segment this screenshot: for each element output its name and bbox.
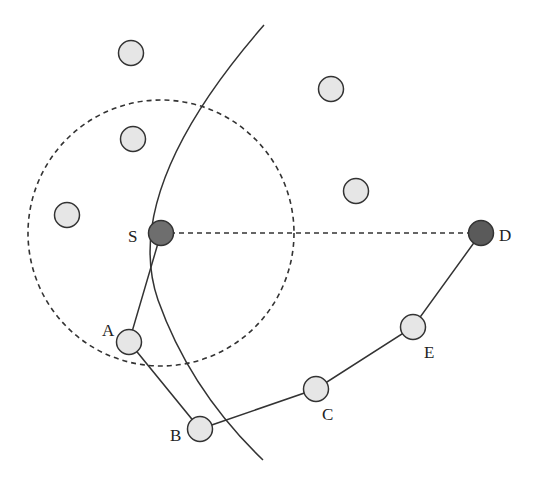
- label-s: S: [128, 228, 137, 245]
- node-c: [304, 377, 329, 402]
- label-c: C: [322, 406, 333, 423]
- node-b: [188, 417, 213, 442]
- node-neighbor: [344, 179, 369, 204]
- node-neighbor: [121, 127, 146, 152]
- label-e: E: [424, 344, 434, 361]
- node-a: [117, 330, 142, 355]
- node-source: [149, 221, 174, 246]
- route-path: [129, 233, 481, 429]
- node-neighbor: [119, 41, 144, 66]
- node-neighbor: [55, 203, 80, 228]
- label-b: B: [170, 427, 181, 444]
- node-e: [401, 315, 426, 340]
- node-neighbor: [319, 77, 344, 102]
- label-d: D: [499, 227, 511, 244]
- node-destination: [469, 221, 494, 246]
- label-a: A: [102, 322, 114, 339]
- routing-diagram: [0, 0, 535, 484]
